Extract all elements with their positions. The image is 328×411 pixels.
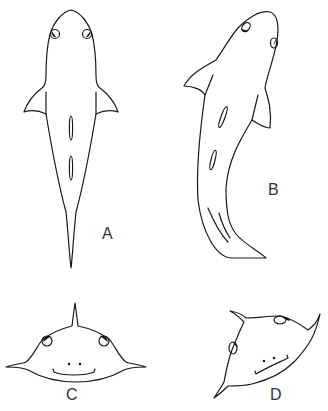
panel-label-c: C [66, 387, 78, 403]
shark-d-drawing [214, 311, 320, 398]
shark-b-drawing [184, 12, 278, 258]
figure-canvas [0, 0, 328, 411]
panel-label-d: D [270, 387, 282, 403]
panel-label-a: A [102, 226, 113, 242]
shark-c-drawing [6, 303, 146, 382]
panel-label-b: B [268, 182, 279, 198]
